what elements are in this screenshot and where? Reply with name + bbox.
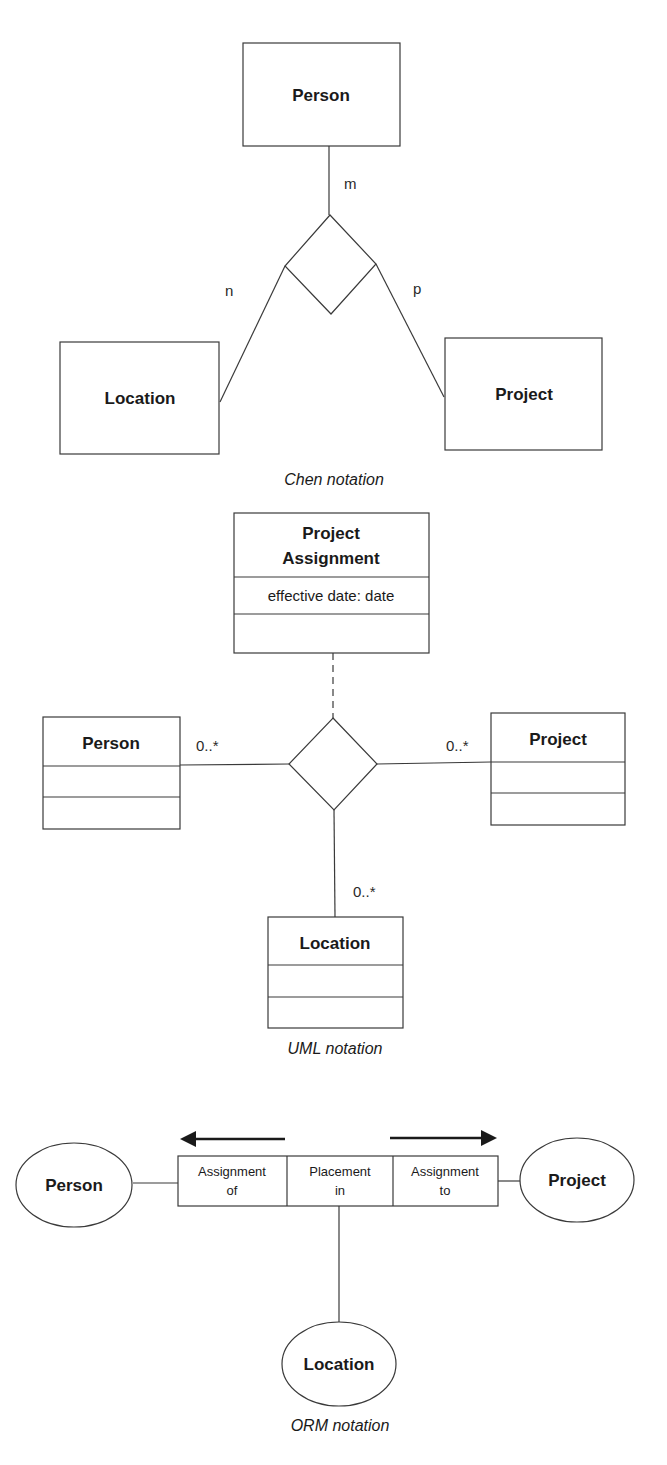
entity-label: Project bbox=[548, 1171, 606, 1190]
chen-caption: Chen notation bbox=[284, 471, 384, 488]
class-name: Person bbox=[82, 734, 140, 753]
class-name-line1: Project bbox=[302, 524, 360, 543]
er-notation-comparison-diagram: Person m n p Location Project Chen notat… bbox=[0, 0, 667, 1465]
entity-label: Location bbox=[105, 389, 176, 408]
uml-class-person: Person bbox=[43, 717, 180, 829]
project-multiplicity: 0..* bbox=[446, 737, 469, 754]
uml-class-location: Location bbox=[268, 917, 403, 1028]
orm-entity-location: Location bbox=[282, 1322, 396, 1406]
cardinality-n: n bbox=[225, 282, 233, 299]
entity-label: Person bbox=[292, 86, 350, 105]
class-name: Project bbox=[529, 730, 587, 749]
entity-label: Project bbox=[495, 385, 553, 404]
uml-class-project: Project bbox=[491, 713, 625, 825]
person-multiplicity: 0..* bbox=[196, 737, 219, 754]
uml-caption: UML notation bbox=[288, 1040, 383, 1057]
role-2-line2: to bbox=[440, 1183, 451, 1198]
left-reading-arrow-icon bbox=[180, 1131, 285, 1147]
chen-diagram: Person m n p Location Project Chen notat… bbox=[60, 43, 602, 488]
role-1-line2: in bbox=[335, 1183, 345, 1198]
orm-diagram: Assignment of Placement in Assignment to… bbox=[16, 1130, 634, 1434]
person-association-line bbox=[180, 764, 289, 765]
entity-label: Person bbox=[45, 1176, 103, 1195]
orm-entity-person: Person bbox=[16, 1143, 132, 1227]
orm-fact-type-roles: Assignment of Placement in Assignment to bbox=[178, 1156, 498, 1206]
uml-diagram: Project Assignment effective date: date … bbox=[43, 513, 625, 1057]
cardinality-p: p bbox=[413, 280, 421, 297]
location-multiplicity: 0..* bbox=[353, 883, 376, 900]
chen-entity-person: Person bbox=[243, 43, 400, 146]
uml-association-class: Project Assignment effective date: date bbox=[234, 513, 429, 653]
class-name-line2: Assignment bbox=[282, 549, 380, 568]
cardinality-m: m bbox=[344, 175, 357, 192]
role-0-line1: Assignment bbox=[198, 1164, 266, 1179]
relationship-diamond bbox=[285, 215, 376, 314]
chen-entity-project: Project bbox=[445, 338, 602, 450]
orm-caption: ORM notation bbox=[291, 1417, 390, 1434]
role-0-line2: of bbox=[227, 1183, 238, 1198]
project-association-line bbox=[377, 762, 491, 764]
n-ary-association-diamond bbox=[289, 718, 377, 810]
role-2-line1: Assignment bbox=[411, 1164, 479, 1179]
class-name: Location bbox=[300, 934, 371, 953]
location-association-line bbox=[334, 810, 335, 917]
entity-label: Location bbox=[304, 1355, 375, 1374]
orm-entity-project: Project bbox=[520, 1138, 634, 1222]
chen-entity-location: Location bbox=[60, 342, 219, 454]
role-1-line1: Placement bbox=[309, 1164, 371, 1179]
project-relationship-line bbox=[376, 264, 444, 397]
right-reading-arrow-icon bbox=[390, 1130, 497, 1146]
class-attribute: effective date: date bbox=[268, 587, 394, 604]
